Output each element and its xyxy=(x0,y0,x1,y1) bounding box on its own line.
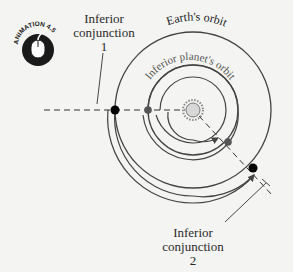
conjunction-2-line-1: Inferior xyxy=(147,226,239,240)
planet-position-2 xyxy=(224,138,232,146)
conjunction-1-line-2: conjunction xyxy=(60,26,148,40)
animation-badge[interactable]: ANIMATION 4.5 xyxy=(12,20,64,72)
conjunction-2-line-2: conjunction xyxy=(147,240,239,254)
conjunction-1-number: 1 xyxy=(60,40,148,54)
sightline-conjunction-2 xyxy=(199,116,272,195)
conjunction-2-label: Inferior conjunction 2 xyxy=(147,226,239,268)
conjunction-2-number: 2 xyxy=(147,254,239,268)
leader-line-2 xyxy=(225,183,266,222)
conjunction-1-line-1: Inferior xyxy=(60,12,148,26)
earth-position-1 xyxy=(111,106,120,115)
conjunction-1-label: Inferior conjunction 1 xyxy=(60,12,148,54)
planet-position-1 xyxy=(144,106,152,114)
earth-position-2 xyxy=(249,164,258,173)
earth-orbit-label: Earth's orbit xyxy=(165,9,230,29)
leader-line-1 xyxy=(97,53,103,104)
